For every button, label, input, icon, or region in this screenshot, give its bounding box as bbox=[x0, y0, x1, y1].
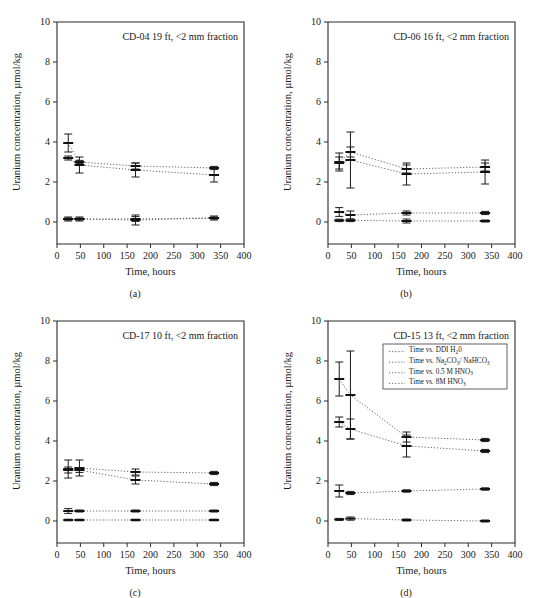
y-tick-label: 8 bbox=[316, 355, 321, 366]
series-line bbox=[68, 143, 214, 168]
legend-label: Time vs. Na2CO3/ NaHCO3 bbox=[409, 357, 490, 366]
x-tick-label: 50 bbox=[75, 549, 85, 560]
data-point bbox=[480, 160, 490, 184]
subfigure-label: (d) bbox=[271, 587, 541, 598]
panel-title: CD-04 19 ft, <2 mm fraction bbox=[122, 31, 238, 42]
data-point bbox=[480, 488, 490, 490]
x-tick-label: 100 bbox=[96, 549, 111, 560]
y-tick-label: 6 bbox=[45, 395, 50, 406]
data-point bbox=[480, 211, 490, 214]
data-series bbox=[63, 460, 219, 478]
x-tick-label: 250 bbox=[437, 549, 452, 560]
data-point bbox=[63, 467, 73, 473]
x-axis-title: Time, hours bbox=[125, 565, 175, 576]
series-line bbox=[339, 220, 485, 221]
legend-label: Time vs. DDI H20 bbox=[409, 346, 462, 355]
y-tick-label: 6 bbox=[45, 96, 50, 107]
data-point bbox=[334, 362, 344, 396]
y-axis: 0246810 bbox=[40, 16, 57, 227]
data-point bbox=[345, 211, 355, 219]
legend-label: Time vs. 0.5 M HNO3 bbox=[409, 368, 473, 377]
data-series bbox=[63, 215, 219, 225]
data-point bbox=[334, 485, 344, 497]
data-point bbox=[480, 520, 490, 522]
x-tick-label: 300 bbox=[461, 250, 476, 261]
legend: Time vs. DDI H20Time vs. Na2CO3/ NaHCO3T… bbox=[383, 344, 507, 389]
y-tick-label: 0 bbox=[45, 216, 50, 227]
y-tick-label: 8 bbox=[316, 56, 321, 67]
y-tick-label: 10 bbox=[40, 315, 50, 326]
y-tick-label: 6 bbox=[316, 96, 321, 107]
x-tick-label: 0 bbox=[55, 250, 60, 261]
x-tick-label: 0 bbox=[326, 549, 331, 560]
legend-label: Time vs. 8M HNO3 bbox=[409, 378, 466, 387]
y-axis-title: Uranium concentration, µmol/kg bbox=[11, 52, 22, 191]
x-tick-label: 200 bbox=[414, 250, 429, 261]
series-line bbox=[339, 152, 485, 169]
y-tick-label: 0 bbox=[45, 515, 50, 526]
x-tick-label: 100 bbox=[96, 250, 111, 261]
x-axis: 050100150200250300350400 bbox=[326, 244, 523, 261]
data-point bbox=[480, 438, 490, 441]
x-tick-label: 200 bbox=[143, 250, 158, 261]
data-point bbox=[63, 156, 73, 160]
data-point bbox=[131, 510, 141, 512]
x-tick-label: 300 bbox=[461, 549, 476, 560]
y-tick-label: 10 bbox=[311, 315, 321, 326]
y-tick-label: 4 bbox=[45, 435, 50, 446]
data-point bbox=[402, 435, 412, 457]
subfigure-label: (a) bbox=[0, 288, 270, 299]
x-axis-title: Time, hours bbox=[396, 565, 446, 576]
y-tick-label: 10 bbox=[40, 16, 50, 27]
data-point bbox=[334, 219, 344, 221]
data-series bbox=[63, 519, 219, 521]
x-tick-label: 0 bbox=[55, 549, 60, 560]
series-line bbox=[339, 212, 485, 215]
x-tick-label: 350 bbox=[484, 250, 499, 261]
x-tick-label: 100 bbox=[367, 250, 382, 261]
data-point bbox=[402, 163, 412, 185]
y-tick-label: 2 bbox=[45, 475, 50, 486]
panel-d: 0246810050100150200250300350400Time, hou… bbox=[271, 299, 541, 598]
y-tick-label: 0 bbox=[316, 515, 321, 526]
data-series bbox=[63, 467, 219, 486]
data-point bbox=[402, 211, 412, 215]
data-point bbox=[63, 519, 73, 521]
x-tick-label: 0 bbox=[326, 250, 331, 261]
series-group bbox=[63, 134, 219, 225]
x-tick-label: 300 bbox=[190, 250, 205, 261]
data-series bbox=[334, 417, 490, 457]
x-axis-title: Time, hours bbox=[396, 266, 446, 277]
plot-frame bbox=[328, 22, 515, 244]
data-point bbox=[334, 157, 344, 169]
x-tick-label: 100 bbox=[367, 549, 382, 560]
data-point bbox=[480, 449, 490, 452]
y-tick-label: 2 bbox=[45, 176, 50, 187]
x-axis: 050100150200250300350400 bbox=[55, 244, 252, 261]
y-axis: 0246810 bbox=[311, 315, 328, 526]
panel-title: CD-17 10 ft, <2 mm fraction bbox=[122, 330, 238, 341]
data-point bbox=[334, 518, 344, 520]
x-tick-label: 300 bbox=[190, 549, 205, 560]
y-axis-title: Uranium concentration, µmol/kg bbox=[282, 351, 293, 490]
data-point bbox=[480, 220, 490, 222]
x-tick-label: 150 bbox=[120, 250, 135, 261]
series-group bbox=[63, 460, 219, 521]
x-tick-label: 50 bbox=[346, 250, 356, 261]
x-tick-label: 200 bbox=[143, 549, 158, 560]
data-point bbox=[74, 218, 84, 220]
series-line bbox=[68, 470, 214, 484]
data-series bbox=[63, 156, 219, 182]
y-axis: 0246810 bbox=[40, 315, 57, 526]
data-point bbox=[131, 476, 141, 484]
x-tick-label: 400 bbox=[508, 250, 523, 261]
series-group bbox=[334, 132, 490, 223]
data-point bbox=[345, 132, 355, 188]
y-tick-label: 4 bbox=[316, 136, 321, 147]
data-point bbox=[209, 519, 219, 521]
subfigure-label: (c) bbox=[0, 587, 270, 598]
plot-frame bbox=[57, 22, 244, 244]
y-tick-label: 8 bbox=[45, 56, 50, 67]
data-series bbox=[63, 509, 219, 514]
x-tick-label: 150 bbox=[120, 549, 135, 560]
